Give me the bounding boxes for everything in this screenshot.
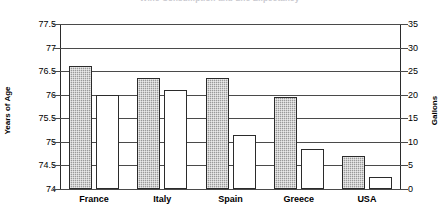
x-axis-label-greece: Greece xyxy=(265,194,333,204)
gridline xyxy=(60,48,401,49)
y-axis-left-title: Years of Age xyxy=(3,81,12,141)
tick-mark-left xyxy=(53,48,60,49)
x-axis-label-spain: Spain xyxy=(196,194,264,204)
x-axis-label-france: France xyxy=(60,194,128,204)
y-axis-right-tick-label: 0 xyxy=(408,185,439,194)
y-axis-right-tick-label: 25 xyxy=(408,67,439,76)
tick-mark-left xyxy=(53,165,60,166)
tick-mark-left xyxy=(53,95,60,96)
gridline xyxy=(60,71,401,72)
x-axis-label-usa: USA xyxy=(333,194,401,204)
plot-area xyxy=(60,24,401,190)
bar-chart: Wine Consumption and Life Expectancy Yea… xyxy=(0,0,439,211)
y-axis-left-tick-label: 77.5 xyxy=(22,20,56,29)
y-axis-right-tick-label: 20 xyxy=(408,91,439,100)
chart-title: Wine Consumption and Life Expectancy xyxy=(0,0,439,3)
y-axis-left-tick-label: 75 xyxy=(22,138,56,147)
tick-mark-left xyxy=(53,71,60,72)
y-axis-right-tick-label: 10 xyxy=(408,138,439,147)
tick-mark-right xyxy=(401,95,408,96)
y-axis-right-tick-label: 15 xyxy=(408,114,439,123)
tick-mark-left xyxy=(53,189,60,190)
tick-mark-right xyxy=(401,24,408,25)
bar-usa-gallons xyxy=(369,177,392,189)
y-axis-left-tick-label: 77 xyxy=(22,44,56,53)
x-axis-label-italy: Italy xyxy=(128,194,196,204)
bar-spain-years-of-age xyxy=(206,78,229,189)
bar-france-gallons xyxy=(96,95,119,189)
y-axis-left-tick-label: 75.5 xyxy=(22,114,56,123)
y-axis-right-tick-label: 35 xyxy=(408,20,439,29)
y-axis-right-tick-label: 30 xyxy=(408,44,439,53)
tick-mark-right xyxy=(401,142,408,143)
tick-mark-right xyxy=(401,165,408,166)
y-axis-left-ticks: 77.57776.57675.57574.574 xyxy=(22,24,56,190)
tick-mark-left xyxy=(53,24,60,25)
gridline xyxy=(60,24,401,25)
y-axis-right-tick-label: 5 xyxy=(408,161,439,170)
bar-greece-years-of-age xyxy=(274,97,297,189)
bar-italy-years-of-age xyxy=(137,78,160,189)
y-axis-left-tick-label: 74.5 xyxy=(22,161,56,170)
y-axis-left-tick-label: 74 xyxy=(22,185,56,194)
y-axis-right-ticks: 35302520151050 xyxy=(408,24,439,190)
x-axis-category-labels: FranceItalySpainGreeceUSA xyxy=(60,194,401,208)
tick-mark-left xyxy=(53,118,60,119)
tick-mark-right xyxy=(401,118,408,119)
bar-italy-gallons xyxy=(164,90,187,189)
tick-mark-right xyxy=(401,71,408,72)
tick-mark-right xyxy=(401,48,408,49)
bar-spain-gallons xyxy=(233,135,256,189)
bar-greece-gallons xyxy=(301,149,324,189)
gridline xyxy=(60,189,401,190)
bar-usa-years-of-age xyxy=(342,156,365,189)
y-axis-left-tick-label: 76 xyxy=(22,91,56,100)
tick-mark-left xyxy=(53,142,60,143)
bar-france-years-of-age xyxy=(69,66,92,189)
tick-mark-right xyxy=(401,189,408,190)
y-axis-left-tick-label: 76.5 xyxy=(22,67,56,76)
